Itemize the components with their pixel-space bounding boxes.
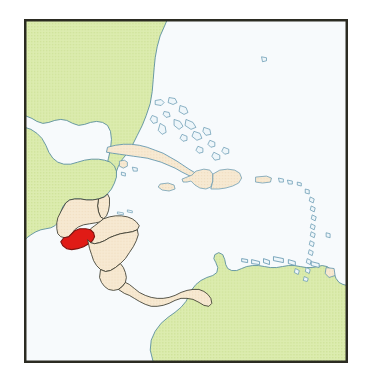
highlighted-country-name: El Salvador: [0, 0, 1, 1]
map-frame: [24, 19, 348, 363]
map-title: Location map of El Salvador in Central A…: [0, 0, 1, 1]
island-isla-de-la-juventud: [119, 160, 127, 168]
map-page: Location map of El Salvador in Central A…: [0, 0, 374, 384]
island-puerto-rico: [256, 176, 272, 183]
locator-map-svg: [25, 20, 347, 362]
